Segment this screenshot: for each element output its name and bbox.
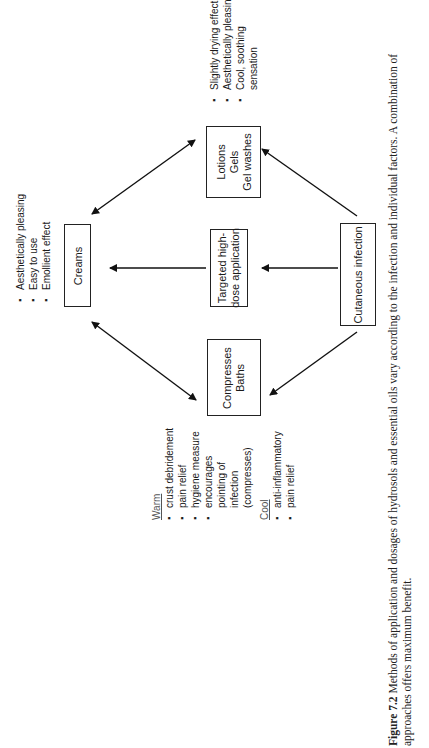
node-cutaneous-label: Cutaneous infection (352, 226, 365, 323)
warm-note-item: crust debridement (163, 428, 176, 520)
arrow-cutaneous-to-compresses (270, 332, 357, 395)
node-targeted-line2: dose application (229, 228, 242, 308)
node-compresses-line2: Baths (234, 347, 247, 409)
cool-heading: Cool (258, 431, 271, 520)
node-compresses: Compresses Baths (207, 339, 261, 416)
figure-caption-text: Methods of application and dosages of hy… (387, 54, 413, 746)
lotions-notes: Slightly drying effect Aesthetically ple… (208, 0, 260, 102)
creams-note-item: Emollient effect (40, 194, 53, 302)
warm-note-item: pain relief (176, 428, 189, 520)
node-targeted: Targeted high- dose application (210, 229, 248, 307)
lotions-note-item: Cool, soothing (234, 0, 247, 102)
creams-notes: Aesthetically pleasing Easy to use Emoll… (14, 194, 53, 302)
node-lotions: Lotions Gels Gel washes (206, 126, 261, 198)
arrow-creams-compresses (92, 322, 196, 400)
arrow-cutaneous-to-lotions (262, 149, 357, 216)
cool-note-item: anti-inflammatory (271, 431, 284, 520)
compresses-cool-notes: Cool anti-inflammatory pain relief (258, 431, 297, 520)
warm-note-continuation: infection (228, 428, 241, 520)
figure-caption: Figure 7.2 Methods of application and do… (386, 6, 414, 746)
node-compresses-label: Compresses Baths (221, 347, 247, 409)
lotions-note-item: Slightly drying effect (208, 0, 221, 102)
warm-note-continuation: pointing of (215, 428, 228, 520)
node-creams-label: Creams (71, 246, 84, 285)
warm-note-item: hygiene measure (189, 428, 202, 520)
node-cutaneous-infection: Cutaneous infection (340, 223, 376, 326)
warm-note-continuation: (compresses) (241, 428, 254, 520)
lotions-note-item: Aesthetically pleasing (221, 0, 234, 102)
lotions-note-continuation: sensation (247, 0, 260, 102)
warm-note-item: encourages (202, 428, 215, 520)
node-lotions-label: Lotions Gels Gel washes (214, 133, 253, 190)
node-lotions-line1: Lotions (214, 133, 227, 190)
node-lotions-line3: Gel washes (240, 133, 253, 190)
cool-note-item: pain relief (284, 431, 297, 520)
node-creams: Creams (64, 224, 91, 307)
node-targeted-label: Targeted high- dose application (216, 228, 242, 308)
warm-heading: Warm (150, 428, 163, 520)
node-targeted-line1: Targeted high- (216, 228, 229, 308)
creams-note-item: Aesthetically pleasing (14, 194, 27, 302)
compresses-warm-notes: Warm crust debridement pain relief hygie… (150, 428, 254, 520)
figure-caption-label: Figure 7.2 (387, 696, 399, 746)
node-compresses-line1: Compresses (221, 347, 234, 409)
arrow-creams-lotions (92, 140, 195, 214)
node-lotions-line2: Gels (227, 133, 240, 190)
creams-note-item: Easy to use (27, 194, 40, 302)
